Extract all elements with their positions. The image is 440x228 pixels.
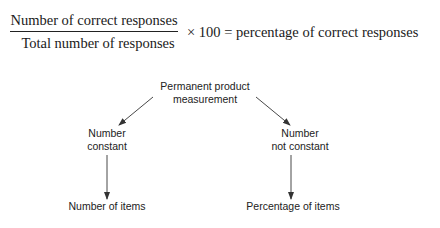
- left-branch-node: Number constant: [87, 127, 127, 153]
- arrow-root-to-right-icon: [256, 97, 290, 125]
- right-leaf-node: Percentage of items: [246, 200, 339, 213]
- root-node: Permanent product measurement: [160, 80, 249, 106]
- arrows-layer: [0, 0, 440, 228]
- diagram-canvas: Number of correct responses Total number…: [0, 0, 440, 228]
- right-branch-node: Number not constant: [271, 127, 328, 153]
- left-leaf-node: Number of items: [68, 200, 145, 213]
- arrow-root-to-left-icon: [119, 97, 153, 125]
